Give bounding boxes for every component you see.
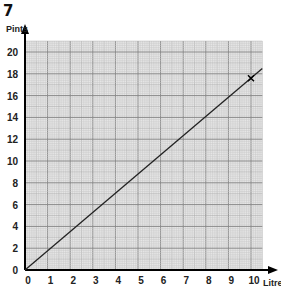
x-tick-label: 7 xyxy=(183,275,189,286)
y-tick-label: 18 xyxy=(7,69,19,80)
y-tick-label: 0 xyxy=(12,265,18,276)
y-axis-label: Pints xyxy=(6,24,28,34)
x-tick-label: 0 xyxy=(25,275,31,286)
y-tick-label: 2 xyxy=(12,243,18,254)
y-tick-label: 4 xyxy=(12,221,18,232)
x-tick-label: 3 xyxy=(93,275,99,286)
conversion-graph: 01234567891002468101214161820 Litres Pin… xyxy=(0,0,281,291)
y-tick-label: 8 xyxy=(12,178,18,189)
x-tick-label: 1 xyxy=(48,275,54,286)
x-tick-label: 2 xyxy=(70,275,76,286)
x-tick-label: 9 xyxy=(229,275,235,286)
grid xyxy=(25,41,262,270)
y-tick-label: 6 xyxy=(12,200,18,211)
x-tick-label: 10 xyxy=(248,275,260,286)
x-tick-label: 5 xyxy=(138,275,144,286)
x-tick-label: 8 xyxy=(206,275,212,286)
x-tick-label: 6 xyxy=(161,275,167,286)
y-tick-label: 16 xyxy=(7,91,19,102)
y-tick-label: 10 xyxy=(7,156,19,167)
y-tick-label: 12 xyxy=(7,134,19,145)
x-tick-label: 4 xyxy=(116,275,122,286)
x-axis-label: Litres xyxy=(263,278,281,288)
y-tick-label: 20 xyxy=(7,47,19,58)
y-tick-label: 14 xyxy=(7,112,19,123)
